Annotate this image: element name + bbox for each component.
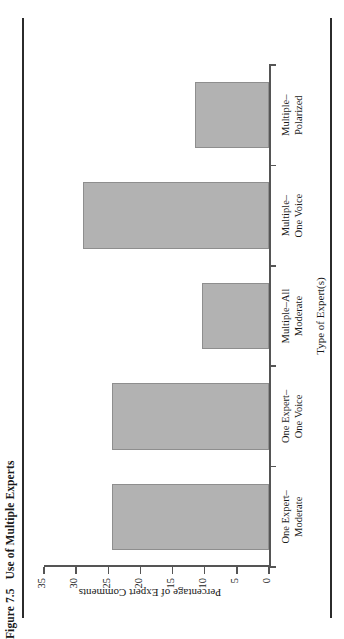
x-tick (269, 64, 276, 66)
y-tick-label: 20 (133, 578, 144, 589)
x-tick (269, 365, 276, 367)
y-tick-label: 25 (101, 578, 112, 589)
y-tick: 15 (172, 567, 174, 574)
x-tick (269, 566, 276, 568)
figure-title: Use of Multiple Experts (4, 460, 16, 579)
page-rule-top (22, 18, 24, 618)
x-tick (269, 466, 276, 468)
x-tick-label: Multiple–AllModerate (280, 261, 305, 371)
page-rule-bottom (330, 18, 332, 618)
bar (83, 182, 269, 248)
x-tick-label-line: Multiple– (280, 161, 293, 271)
y-tick: 20 (140, 567, 142, 574)
x-tick-label-line: One Expert– (280, 361, 293, 471)
y-tick: 0 (268, 567, 270, 574)
bar (195, 82, 269, 148)
x-tick (269, 265, 276, 267)
y-tick-label: 35 (36, 578, 47, 589)
x-axis-title: Type of Expert(s) (314, 65, 326, 567)
x-tick-label: One Expert–Moderate (280, 462, 305, 572)
figure-caption: Figure 7.5Use of Multiple Experts (0, 0, 20, 639)
x-tick-label-line: One Voice (293, 161, 306, 271)
y-tick-label: 5 (229, 578, 240, 583)
y-tick-label: 10 (197, 578, 208, 589)
x-tick-label: Multiple–One Voice (280, 161, 305, 271)
y-tick-label: 30 (68, 578, 79, 589)
y-axis-title: Percentage of Expert Comments (40, 587, 260, 599)
figure-page: Figure 7.5Use of Multiple Experts Percen… (0, 0, 344, 639)
bar (112, 484, 270, 550)
x-tick-label-line: Moderate (293, 261, 306, 371)
y-tick-label: 0 (261, 578, 272, 583)
x-tick-label-line: Multiple–All (280, 261, 293, 371)
y-tick: 35 (43, 567, 45, 574)
bar (112, 383, 270, 449)
x-tick-label: Multiple–Polarized (280, 60, 305, 170)
x-tick (269, 165, 276, 167)
y-tick: 30 (75, 567, 77, 574)
x-tick-label-line: One Voice (293, 361, 306, 471)
y-tick: 5 (236, 567, 238, 574)
chart-plot-area: Percentage of Expert Comments 0510152025… (26, 19, 326, 619)
bar (202, 283, 270, 349)
x-tick-label: One Expert–One Voice (280, 361, 305, 471)
x-tick-label-line: One Expert– (280, 462, 293, 572)
x-tick-label-line: Multiple– (280, 60, 293, 170)
y-tick: 10 (204, 567, 206, 574)
x-axis-line (269, 65, 271, 567)
figure-number: Figure 7.5 (4, 588, 16, 639)
x-tick-label-line: Moderate (293, 462, 306, 572)
y-tick: 25 (108, 567, 110, 574)
x-tick-label-line: Polarized (293, 60, 306, 170)
y-tick-label: 15 (165, 578, 176, 589)
